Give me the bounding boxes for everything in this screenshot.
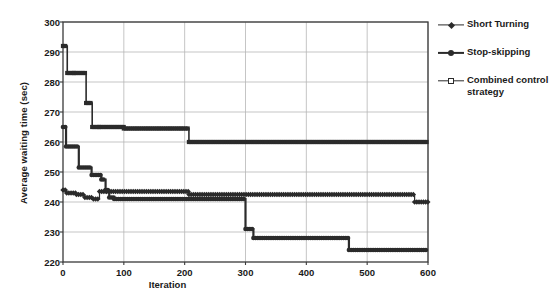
x-tick-label: 500 xyxy=(345,267,389,278)
circle-marker-icon xyxy=(438,47,464,59)
x-tick-label: 400 xyxy=(284,267,328,278)
legend-label-stop-skipping: Stop-skipping xyxy=(467,46,530,58)
legend-label-combined-control-strategy: Combined control strategy xyxy=(467,74,555,97)
legend-item-stop-skipping: Stop-skipping xyxy=(438,46,556,59)
diamond-marker-icon xyxy=(438,19,464,31)
legend-item-combined-control-strategy: Combined control strategy xyxy=(438,74,556,97)
series-3 xyxy=(61,44,429,144)
x-tick-label: 200 xyxy=(163,267,207,278)
chart-legend: Short Turning Stop-skipping Combined con… xyxy=(438,18,556,112)
square-marker-icon xyxy=(438,75,464,87)
x-axis-title-text: Iteration xyxy=(149,279,186,290)
chart-figure: Average waiting time (sec) 3002902802702… xyxy=(0,0,557,305)
x-tick-label: 600 xyxy=(406,267,450,278)
x-tick-label: 300 xyxy=(224,267,268,278)
x-tick-label: 0 xyxy=(41,267,85,278)
legend-label-short-turning: Short Turning xyxy=(467,18,529,30)
x-axis-title: Iteration xyxy=(0,279,557,290)
x-tick-label: 100 xyxy=(102,267,146,278)
legend-item-short-turning: Short Turning xyxy=(438,18,556,31)
